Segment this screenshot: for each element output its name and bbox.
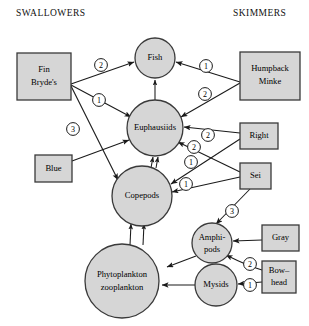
node-bowhead-line2: head — [271, 277, 288, 287]
rank-badge-sei-amphipods: 3 — [226, 205, 239, 218]
rank-badge-bowhead-mysids: 1 — [244, 279, 257, 292]
node-fin-brydes[interactable]: Fin Bryde's — [17, 53, 71, 100]
node-fish[interactable]: Fish — [135, 38, 175, 78]
node-layer: Fin Bryde's Blue Humpback Minke Right Se… — [17, 38, 300, 318]
rank-label: 2 — [248, 260, 252, 269]
rank-label: 1 — [97, 96, 101, 105]
node-euphausiids-label: Euphausiids — [134, 122, 177, 132]
node-humpback-minke-line2: Minke — [259, 76, 282, 86]
node-sei-label: Sei — [250, 170, 262, 180]
node-right[interactable]: Right — [240, 123, 278, 149]
node-humpback-minke[interactable]: Humpback Minke — [240, 52, 300, 100]
rank-label: 1 — [189, 158, 193, 167]
food-web-diagram: SWALLOWERS SKIMMERS — [0, 0, 309, 326]
node-gray-label: Gray — [272, 232, 290, 242]
rank-label: 3 — [71, 125, 75, 134]
edge-copepods-euphausiids-a — [151, 157, 153, 168]
node-fish-label: Fish — [148, 52, 164, 62]
edge-amphipods-phyto — [167, 256, 196, 267]
edge-right-copepods — [171, 139, 240, 184]
edge-blue-euphausiids — [72, 140, 129, 161]
rank-label: 1 — [248, 281, 252, 290]
diagram-canvas: Fin Bryde's Blue Humpback Minke Right Se… — [0, 0, 309, 326]
node-blue[interactable]: Blue — [35, 155, 72, 182]
node-humpback-minke-line1: Humpback — [251, 63, 289, 73]
node-bowhead-line1: Bow– — [269, 265, 290, 275]
node-mysids[interactable]: Mysids — [195, 264, 237, 306]
rank-label: 2 — [99, 61, 103, 70]
rank-badge-right-copepods: 1 — [185, 156, 198, 169]
node-blue-label: Blue — [45, 163, 61, 173]
rank-badge-fin_brydes-euphausiids: 1 — [93, 94, 106, 107]
node-mysids-label: Mysids — [203, 279, 229, 289]
rank-badge-fin_brydes-fish: 2 — [95, 59, 108, 72]
node-phytoplankton-zooplankton[interactable]: Phytoplankton zooplankton — [85, 244, 159, 318]
node-right-label: Right — [249, 130, 269, 140]
node-phyto-line2: zooplankton — [101, 282, 144, 292]
edge-humpback-euphausiids — [181, 83, 240, 117]
node-copepods[interactable]: Copepods — [112, 166, 172, 226]
edge-phyto-copepods-b — [143, 224, 144, 245]
rank-badge-bowhead-amphipods: 2 — [244, 258, 257, 271]
rank-badge-humpback_minke-fish: 1 — [200, 60, 213, 73]
rank-label: 2 — [206, 131, 210, 140]
rank-label: 2 — [192, 143, 196, 152]
node-sei[interactable]: Sei — [240, 163, 271, 189]
edge-phyto-copepods-a — [130, 224, 131, 245]
rank-badge-fin_brydes-copepods: 3 — [67, 123, 80, 136]
node-amphipods-line1: Amphi- — [199, 232, 226, 242]
node-fin-brydes-line2: Bryde's — [31, 77, 58, 87]
node-amphipods-line2: pods — [204, 244, 221, 254]
rank-badge-right-euphausiids: 2 — [202, 129, 215, 142]
node-fin-brydes-line1: Fin — [38, 64, 50, 74]
rank-label: 2 — [203, 90, 207, 99]
rank-label: 1 — [184, 180, 188, 189]
node-gray[interactable]: Gray — [262, 225, 299, 251]
rank-label: 3 — [230, 207, 234, 216]
rank-badge-sei-euphausiids: 2 — [188, 141, 201, 154]
node-bowhead[interactable]: Bow– head — [262, 261, 296, 293]
node-copepods-label: Copepods — [125, 190, 160, 200]
node-amphipods[interactable]: Amphi- pods — [192, 223, 232, 263]
rank-badge-humpback_minke-euphausiids: 2 — [199, 88, 212, 101]
edge-copepods-euphausiids-b — [156, 157, 158, 168]
rank-label: 1 — [204, 62, 208, 71]
edge-gray-amphipods — [233, 240, 262, 241]
rank-badge-sei-copepods: 1 — [180, 178, 193, 191]
node-euphausiids[interactable]: Euphausiids — [127, 100, 183, 156]
node-phyto-line1: Phytoplankton — [97, 269, 148, 279]
